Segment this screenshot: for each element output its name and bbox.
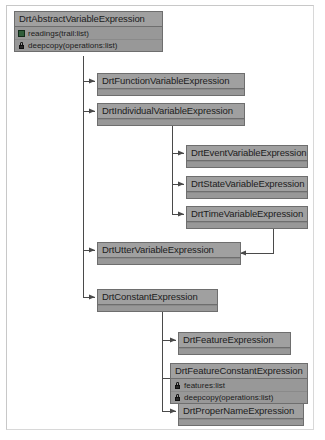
lock-icon (174, 394, 181, 401)
class-members (187, 192, 307, 198)
class-name-label: DrtEventVariableExpression (187, 146, 307, 161)
class-name-label: DrtAbstractVariableExpression (15, 12, 162, 27)
member-row[interactable]: features:list (171, 379, 307, 391)
member-row[interactable]: deepcopy(operations:list) (171, 391, 307, 403)
member-label: readings(trail:list) (28, 28, 89, 39)
class-members (98, 119, 244, 125)
class-members: readings(trail:list) deepcopy(operations… (15, 27, 162, 51)
member-row[interactable]: readings(trail:list) (15, 27, 162, 39)
class-members (98, 89, 244, 95)
class-members: features:list deepcopy(operations:list) (171, 379, 307, 403)
class-box-drttimevariableexpression[interactable]: DrtTimeVariableExpression (186, 206, 308, 229)
class-box-drtabstractvariableexpression[interactable]: DrtAbstractVariableExpression readings(t… (14, 11, 163, 52)
class-members (187, 222, 307, 228)
class-box-drtindividualvariableexpression[interactable]: DrtIndividualVariableExpression (97, 103, 245, 126)
class-box-drtfunctionvariableexpression[interactable]: DrtFunctionVariableExpression (97, 73, 245, 96)
class-name-label: DrtUtterVariableExpression (98, 243, 240, 258)
lock-icon (174, 382, 181, 389)
class-members (179, 419, 303, 425)
class-members (179, 348, 290, 354)
class-box-drteventvariableexpression[interactable]: DrtEventVariableExpression (186, 145, 308, 168)
lock-icon (18, 42, 25, 49)
member-label: features:list (184, 380, 225, 391)
uml-class-diagram: DrtAbstractVariableExpression readings(t… (0, 0, 325, 440)
class-name-label: DrtIndividualVariableExpression (98, 104, 244, 119)
class-box-drtuttervariableexpression[interactable]: DrtUtterVariableExpression (97, 242, 241, 265)
class-name-label: DrtFunctionVariableExpression (98, 74, 244, 89)
class-members (187, 161, 307, 167)
class-box-drtpropernameexpression[interactable]: DrtProperNameExpression (178, 403, 304, 426)
class-name-label: DrtProperNameExpression (179, 404, 303, 419)
class-name-label: DrtFeatureExpression (179, 333, 290, 348)
member-label: deepcopy(operations:list) (28, 40, 117, 51)
class-members (98, 305, 217, 311)
class-members (98, 258, 240, 264)
member-row[interactable]: deepcopy(operations:list) (15, 39, 162, 51)
class-name-label: DrtConstantExpression (98, 290, 217, 305)
class-name-label: DrtStateVariableExpression (187, 177, 307, 192)
class-name-label: DrtFeatureConstantExpression (171, 364, 307, 379)
member-label: deepcopy(operations:list) (184, 392, 273, 403)
class-box-drtfeatureexpression[interactable]: DrtFeatureExpression (178, 332, 291, 355)
class-box-drtfeatureconstantexpression[interactable]: DrtFeatureConstantExpression features:li… (170, 363, 308, 404)
class-name-label: DrtTimeVariableExpression (187, 207, 307, 222)
class-box-drtstatevariableexpression[interactable]: DrtStateVariableExpression (186, 176, 308, 199)
public-square-icon (18, 30, 25, 37)
class-box-drtconstantexpression[interactable]: DrtConstantExpression (97, 289, 218, 312)
